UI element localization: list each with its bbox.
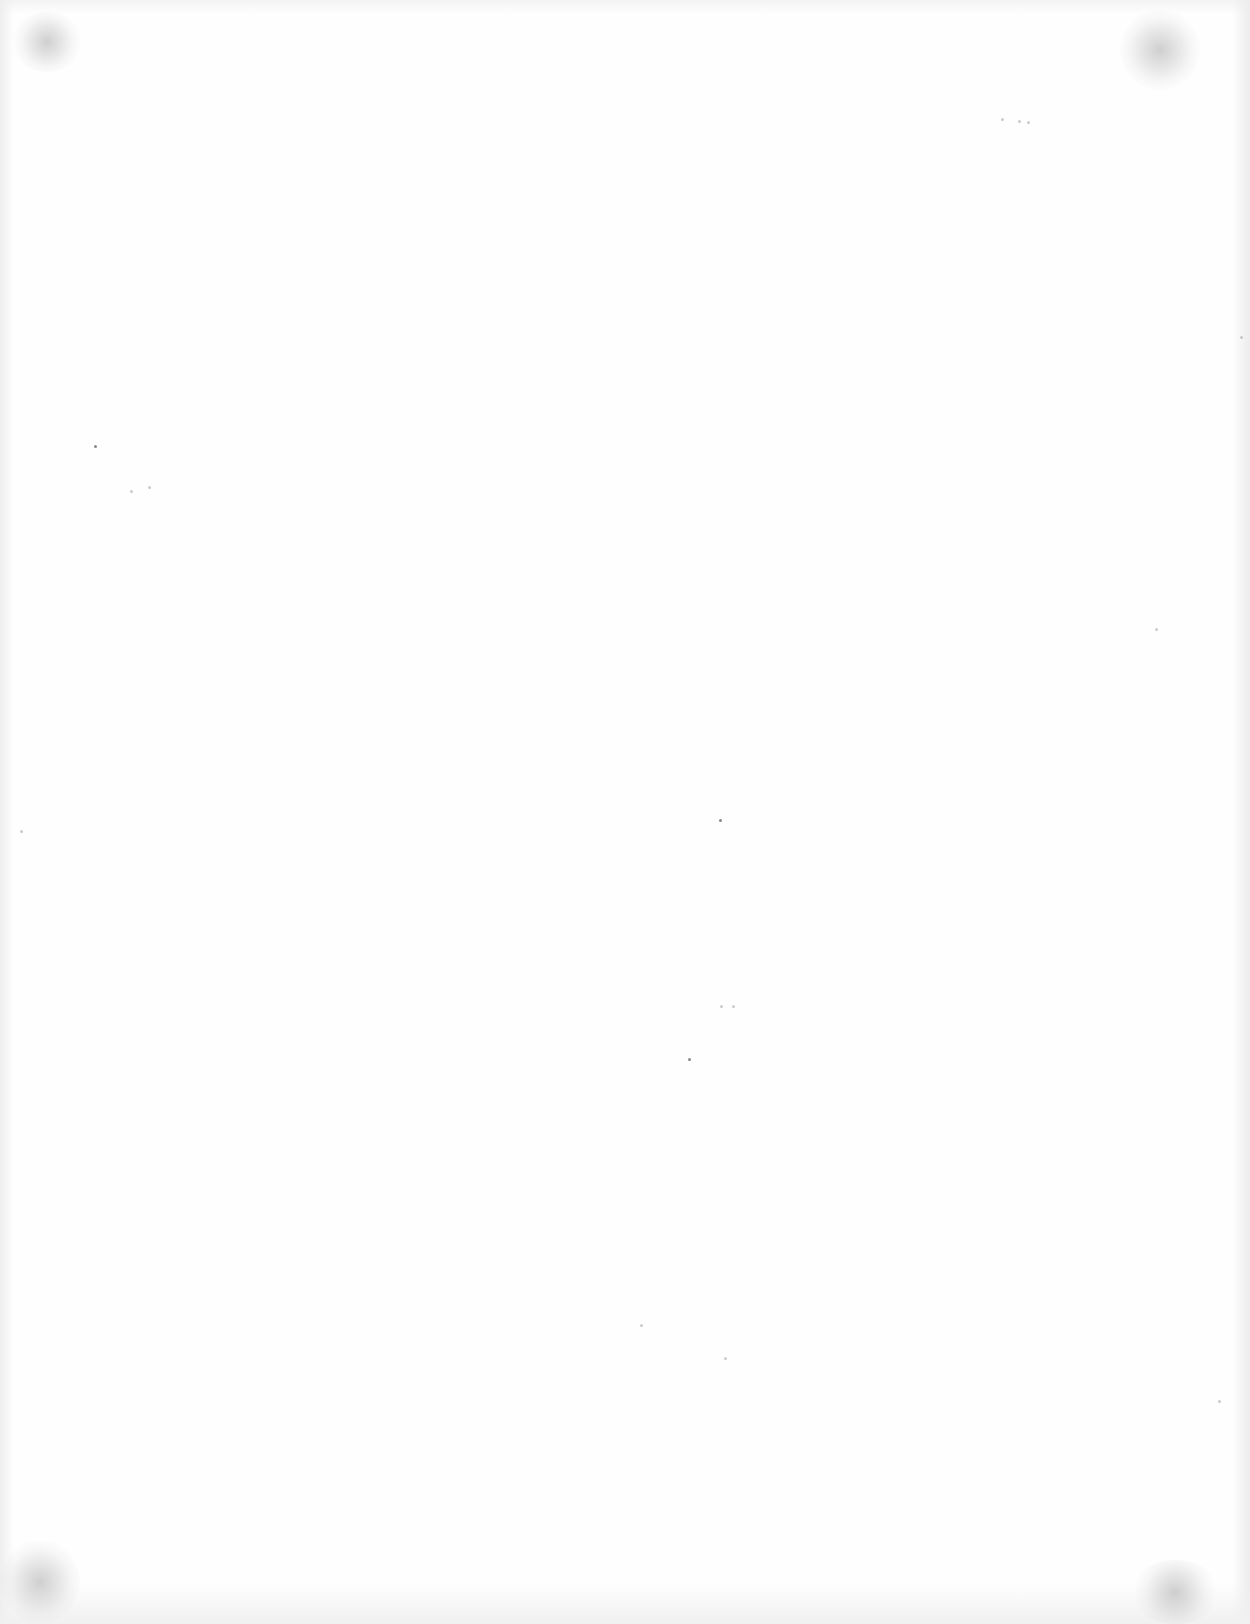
scan-speck (1018, 120, 1021, 123)
scan-speck (719, 819, 722, 822)
scan-speck (720, 1005, 723, 1008)
scan-smudge (1130, 1560, 1220, 1624)
scan-speck (1218, 1400, 1221, 1403)
scan-speck (640, 1324, 643, 1327)
scan-speck (94, 445, 97, 448)
scan-speck (1027, 121, 1030, 124)
scan-speck (1001, 118, 1004, 121)
scan-edge-left (0, 0, 14, 1624)
blank-scanned-page (0, 0, 1250, 1624)
scan-speck (148, 486, 151, 489)
scan-smudge (12, 12, 82, 72)
scan-smudge (1120, 10, 1200, 90)
scan-edge-top (0, 0, 1250, 14)
scan-edge-bottom (0, 1584, 1250, 1624)
scan-speck (732, 1005, 735, 1008)
scan-speck (20, 830, 23, 833)
scan-edge-right (1232, 0, 1250, 1624)
scan-speck (1155, 628, 1158, 631)
scan-speck (688, 1058, 691, 1061)
scan-speck (1240, 336, 1243, 339)
scan-smudge (0, 1540, 80, 1624)
scan-speck (130, 490, 133, 493)
scan-speck (724, 1357, 727, 1360)
